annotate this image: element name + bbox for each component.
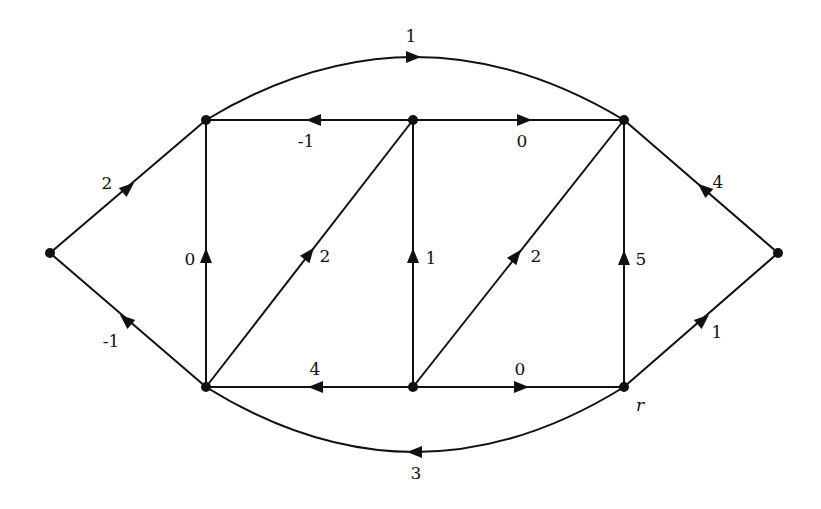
edge-weight-BM-BL: 4 <box>310 361 321 378</box>
node-label-r: r <box>636 397 644 414</box>
edge-weight-BL-TM: 2 <box>320 248 331 265</box>
edge-weight-BR-BL: 3 <box>411 465 422 482</box>
node-BL <box>201 382 211 392</box>
edge-BR-BL-arc <box>206 387 624 452</box>
node-TM <box>408 115 418 125</box>
edge-weight-TM-TR: 0 <box>517 133 528 150</box>
edge-weight-BM-TR: 2 <box>531 248 542 265</box>
edge-weight-BL-L: -1 <box>103 333 120 350</box>
arrow-icon-TL-TR-arc <box>406 51 421 63</box>
graph-canvas <box>0 0 821 509</box>
edge-weight-BL-TL: 0 <box>185 251 196 268</box>
arrow-icon-BR-TR <box>618 250 630 265</box>
node-TR <box>619 115 629 125</box>
arrow-icon-BR-BL-arc <box>407 446 422 458</box>
node-L <box>45 248 55 258</box>
edge-weight-BM-BR: 0 <box>515 361 526 378</box>
edge-weight-TM-TL: -1 <box>298 133 315 150</box>
arrow-icon-BM-BL <box>308 381 323 393</box>
edge-weight-TL-TR: 1 <box>406 28 417 45</box>
arrow-icon-BL-TL <box>200 248 212 263</box>
arrow-icon-BM-BR <box>514 381 529 393</box>
edge-weight-BM-TM: 1 <box>426 250 437 267</box>
edge-TL-TR-arc <box>206 57 624 120</box>
node-BM <box>408 382 418 392</box>
node-TL <box>201 115 211 125</box>
edge-weight-L-TL: 2 <box>102 175 113 192</box>
arrow-icon-TM-TR <box>517 114 532 126</box>
arrow-icon-BM-TM <box>407 248 419 263</box>
edge-weight-BR-TR: 5 <box>636 251 647 268</box>
edge-weight-R-TR: 4 <box>713 174 724 191</box>
node-BR <box>619 382 629 392</box>
arrow-icon-TM-TL <box>306 114 321 126</box>
node-R <box>773 248 783 258</box>
edge-weight-BR-R: 1 <box>712 324 723 341</box>
